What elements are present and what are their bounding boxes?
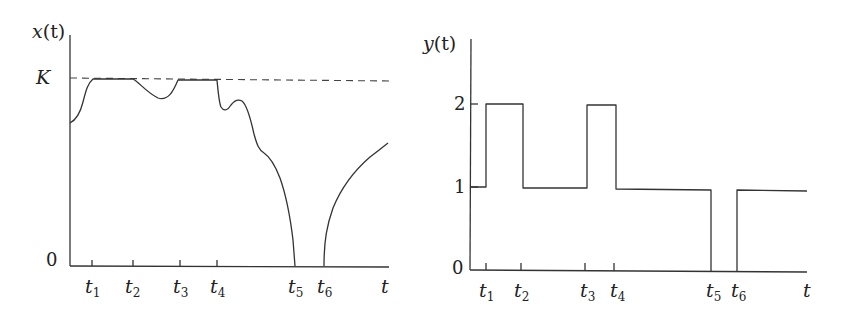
left-x-axis [70,266,389,267]
right-y-axis [470,39,471,270]
y-step-function [471,104,807,272]
right-zero-label: 0 [452,257,463,278]
tick-label-t5: t5 [706,279,721,304]
y-label-1: 1 [454,176,465,197]
tick-label-t6: t6 [731,279,746,304]
tick-label-t1: t1 [479,279,494,304]
left-y-axis-label: x(t) [32,20,65,42]
left-plot: x(t) K 0 t1 t2 t3 t4 t5 t6 t [32,20,392,300]
figure: x(t) K 0 t1 t2 t3 t4 t5 t6 t y(t) [0,0,846,315]
tick-label-t2: t2 [125,275,140,300]
tick-label-t3: t3 [173,275,188,300]
tick-label-t3: t3 [580,279,595,304]
right-y-axis-label: y(t) [422,32,456,54]
tick-label-t4: t4 [210,275,226,300]
tick-label-t5: t5 [288,275,303,300]
right-x-axis-label: t [803,279,811,301]
tick-label-t1: t1 [85,275,100,300]
k-label: K [35,66,52,88]
left-tick-labels: t1 t2 t3 t4 t5 t6 t [85,275,389,300]
tick-label-t4: t4 [610,279,626,304]
left-x-ticks [92,260,217,266]
left-x-axis-label: t [381,275,389,297]
tick-label-t6: t6 [317,275,332,300]
x-curve-recovery [324,143,388,266]
right-x-axis [470,270,807,272]
x-curve [70,79,295,266]
right-tick-labels: t1 t2 t3 t4 t5 t6 t [479,279,811,304]
left-zero-label: 0 [46,249,57,270]
y-label-2: 2 [454,93,465,114]
right-plot: y(t) 2 1 0 t1 t2 t3 t4 t5 t6 t [422,32,811,304]
tick-label-t2: t2 [514,279,529,304]
